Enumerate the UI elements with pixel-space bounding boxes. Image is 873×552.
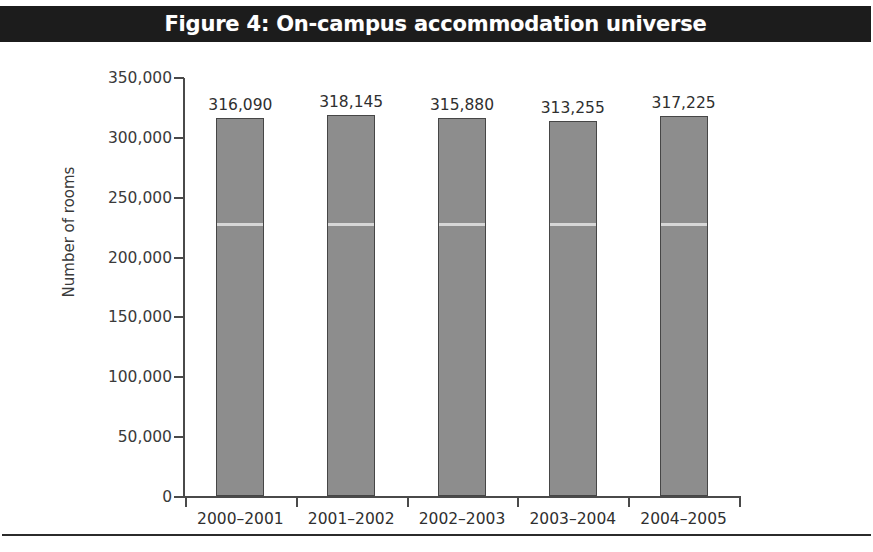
x-axis-tick-mark: [517, 496, 519, 507]
x-axis-tick-label: 2000–2001: [197, 510, 284, 528]
bar[interactable]: [660, 116, 708, 496]
x-axis-tick-mark: [185, 496, 187, 507]
scanline-artifact: [217, 223, 263, 226]
x-axis-tick-label: 2001–2002: [308, 510, 395, 528]
bottom-divider: [2, 534, 871, 536]
x-axis-tick-mark: [407, 496, 409, 507]
bar-group: 317,225: [660, 76, 708, 496]
x-axis-tick-mark: [296, 496, 298, 507]
bar-value-label: 316,090: [208, 96, 272, 114]
figure-title-banner: Figure 4: On-campus accommodation univer…: [0, 6, 871, 42]
bar-value-label: 318,145: [319, 93, 383, 111]
bar[interactable]: [438, 118, 486, 496]
bar-group: 316,090: [216, 78, 264, 496]
x-axis-tick-mark: [628, 496, 630, 507]
scanline-artifact: [550, 223, 596, 226]
figure-page: Figure 4: On-campus accommodation univer…: [0, 0, 873, 552]
bar-group: 313,255: [549, 81, 597, 496]
bar-value-label: 313,255: [541, 99, 605, 117]
page-title: Figure 4: On-campus accommodation univer…: [164, 12, 706, 36]
scanline-artifact: [439, 223, 485, 226]
figure-title-banner-inner: Figure 4: On-campus accommodation univer…: [0, 6, 871, 42]
bar-group: 318,145: [327, 75, 375, 496]
scanline-artifact: [328, 223, 374, 226]
bar[interactable]: [327, 115, 375, 496]
x-axis-tick-mark: [739, 496, 741, 507]
bars-layer: 316,0902000–2001318,1452001–2002315,8802…: [0, 42, 873, 532]
scanline-artifact: [661, 223, 707, 226]
x-axis-tick-label: 2002–2003: [419, 510, 506, 528]
x-axis-tick-label: 2003–2004: [529, 510, 616, 528]
bar-value-label: 317,225: [652, 94, 716, 112]
bar[interactable]: [216, 118, 264, 496]
bar-chart: Number of rooms 050,000100,000150,000200…: [0, 42, 873, 532]
bar[interactable]: [549, 121, 597, 496]
bar-group: 315,880: [438, 78, 486, 496]
bar-value-label: 315,880: [430, 96, 494, 114]
x-axis-tick-label: 2004–2005: [640, 510, 727, 528]
